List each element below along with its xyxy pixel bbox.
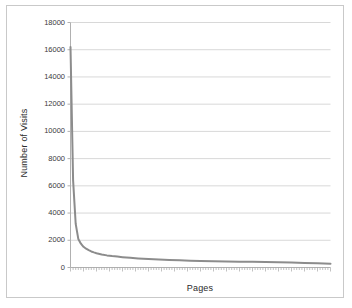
y-axis-tick-label: 12000 xyxy=(20,99,65,108)
y-axis-title: Number of Visits xyxy=(19,100,29,186)
data-series-line xyxy=(71,47,331,264)
y-axis-tick-label: 8000 xyxy=(20,154,65,163)
y-axis-tick-label: 18000 xyxy=(20,18,65,27)
y-axis-tick-label: 0 xyxy=(20,263,65,272)
x-axis-tick-group xyxy=(71,268,331,272)
y-axis-tick-label: 10000 xyxy=(20,126,65,135)
y-axis-tick-label: 4000 xyxy=(20,208,65,217)
chart-figure: Number of Visits Pages 18000160001400012… xyxy=(0,0,352,308)
y-axis-tick-label: 16000 xyxy=(20,45,65,54)
y-axis-tick-label: 2000 xyxy=(20,235,65,244)
y-axis-tick-label: 14000 xyxy=(20,72,65,81)
x-axis-title: Pages xyxy=(140,283,260,293)
y-axis-tick-label: 6000 xyxy=(20,181,65,190)
